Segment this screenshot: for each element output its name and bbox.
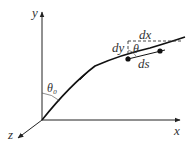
y-axis-label: y	[30, 5, 38, 20]
z-axis	[18, 120, 42, 138]
point-end	[157, 48, 162, 53]
tangent-mark	[80, 68, 92, 80]
theta-label: θ	[133, 42, 139, 56]
dx-label: dx	[139, 27, 152, 42]
x-axis-label: x	[173, 123, 180, 138]
theta0-label: θ₀	[47, 81, 57, 95]
z-axis-label: z	[7, 127, 13, 142]
curve-diagram: y x z θ₀ θ dx dy ds	[0, 0, 193, 146]
ds-label: ds	[138, 56, 150, 71]
dy-label: dy	[112, 40, 125, 55]
point-start	[125, 56, 130, 61]
